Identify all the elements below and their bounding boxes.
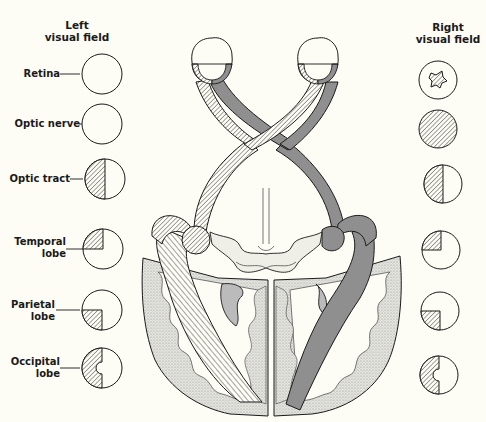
- right-field-parietal-lobe: [421, 292, 459, 330]
- left-field-occipital-lobe: [82, 348, 122, 388]
- eye-right: [298, 38, 338, 84]
- brain-diagram: [142, 38, 401, 416]
- left-field-temporal-lobe: [83, 229, 123, 269]
- left-field-retina: [82, 54, 122, 94]
- midbrain: [210, 188, 322, 272]
- eye-left: [192, 38, 232, 84]
- lgb-left: [182, 226, 210, 254]
- right-field-optic-tract: [424, 165, 462, 203]
- optic-tract-left: [194, 140, 258, 232]
- left-field-optic-nerve: [82, 104, 122, 144]
- visual-pathway-figure: Left visual field Right visual field Ret…: [0, 0, 486, 422]
- right-field-optic-nerve: [419, 110, 457, 148]
- lgb-right: [322, 226, 344, 250]
- optic-tract-right: [276, 140, 344, 230]
- diagram-svg: [0, 0, 486, 422]
- right-field-temporal-lobe: [422, 231, 460, 269]
- left-field-optic-tract: [85, 159, 125, 199]
- right-field-occipital-lobe: [420, 356, 458, 394]
- left-field-parietal-lobe: [82, 290, 122, 330]
- right-field-retina: [419, 61, 457, 99]
